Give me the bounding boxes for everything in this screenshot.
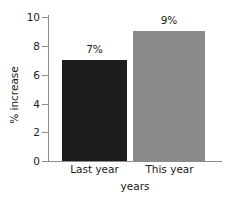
y-tick-label-4: 4: [0, 99, 40, 110]
bar-chart: 10 8 6 4 2 0 % increase 7% 9% Last year …: [0, 0, 226, 198]
y-tick-label-8: 8: [0, 41, 40, 52]
y-tick-label-0: 0: [0, 156, 40, 167]
y-tick-mark-10: [42, 17, 48, 18]
bar-this-year: [133, 31, 205, 161]
x-category-label-last-year: Last year: [57, 164, 132, 175]
x-axis-line: [48, 161, 222, 162]
y-tick-mark-6: [42, 75, 48, 76]
y-tick-mark-4: [42, 104, 48, 105]
y-tick-label-2: 2: [0, 127, 40, 138]
y-tick-mark-2: [42, 132, 48, 133]
x-category-label-this-year: This year: [132, 164, 207, 175]
x-axis-title: years: [48, 180, 222, 192]
bar-last-year: [62, 60, 127, 161]
y-tick-label-10: 10: [0, 12, 40, 23]
y-tick-label-6: 6: [0, 70, 40, 81]
bar-value-label-this-year: 9%: [133, 15, 205, 26]
y-axis-title: % increase: [8, 35, 20, 155]
y-tick-mark-8: [42, 46, 48, 47]
y-axis-line: [48, 15, 49, 162]
bar-value-label-last-year: 7%: [62, 44, 127, 55]
